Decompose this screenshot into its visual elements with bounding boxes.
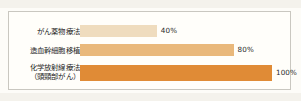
bar-category-label-line: 造血幹細胞移植 bbox=[30, 46, 80, 55]
bar-value-label: 40% bbox=[161, 27, 177, 34]
bar-category-label: 化学放射線療法 （頭頸部がん） bbox=[30, 63, 80, 81]
chart-frame: がん薬物療法 40% 造血幹細胞移植 80% 化学放射線療法 （頭頸部がん） bbox=[8, 11, 291, 90]
bar-track bbox=[80, 44, 234, 56]
bar-fill bbox=[80, 44, 234, 56]
scan-edge-top bbox=[0, 0, 301, 8]
bar-track bbox=[80, 25, 157, 37]
bar-value-label: 100% bbox=[276, 69, 297, 76]
bar-fill bbox=[80, 65, 272, 81]
bar-category-label: がん薬物療法 bbox=[37, 27, 80, 36]
bar-fill bbox=[80, 25, 157, 37]
bar-value-label: 80% bbox=[238, 46, 254, 53]
bar-category-label-line: 化学放射線療法 bbox=[30, 63, 80, 72]
bar-category-label: 造血幹細胞移植 bbox=[30, 46, 80, 55]
bar-category-label-line: がん薬物療法 bbox=[37, 27, 80, 36]
scan-edge-bottom bbox=[0, 93, 301, 101]
bar-category-label-line: （頭頸部がん） bbox=[30, 72, 80, 81]
bar-row: 造血幹細胞移植 80% bbox=[9, 43, 292, 57]
bar-track bbox=[80, 65, 272, 81]
bar-chart-figure: がん薬物療法 40% 造血幹細胞移植 80% 化学放射線療法 （頭頸部がん） bbox=[0, 0, 301, 101]
bar-row: がん薬物療法 40% bbox=[9, 24, 292, 38]
bar-row: 化学放射線療法 （頭頸部がん） 100% bbox=[9, 62, 292, 84]
